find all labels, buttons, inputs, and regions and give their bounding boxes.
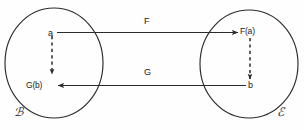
arrow-label-g: G (144, 67, 151, 77)
set-circle-domain (5, 8, 103, 118)
diagram-canvas: a F(a) G(b) b F G ℬ ℰ (0, 0, 304, 130)
set-label-codomain: ℰ (277, 105, 284, 120)
set-label-domain: ℬ (14, 105, 23, 120)
arrow-label-f: F (144, 16, 149, 26)
point-label-a: a (48, 28, 53, 38)
diagram-vector-layer (0, 0, 304, 130)
point-label-gb: G(b) (26, 80, 42, 90)
point-label-fa: F(a) (240, 26, 255, 36)
point-label-b: b (248, 80, 253, 90)
